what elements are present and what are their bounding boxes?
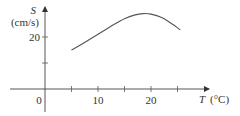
y-tick-label: 20	[29, 31, 41, 43]
x-tick-label: 20	[146, 94, 158, 106]
tick-labels: 102020	[29, 31, 157, 106]
ticks	[42, 37, 178, 92]
y-axis-label-unit: (cm/s)	[11, 16, 39, 29]
data-curve	[72, 14, 181, 50]
x-axis-label-symbol: T	[199, 93, 206, 105]
chart-canvas: S (cm/s) 0 T (°C) 102020	[0, 0, 240, 116]
origin-label: 0	[36, 94, 42, 106]
x-tick-label: 10	[93, 94, 105, 106]
x-axis-label-unit: (°C)	[210, 93, 229, 106]
y-axis-label-symbol: S	[31, 4, 37, 16]
speed-temperature-curve	[72, 14, 181, 50]
axis-labels: S (cm/s) 0 T (°C)	[11, 4, 230, 106]
